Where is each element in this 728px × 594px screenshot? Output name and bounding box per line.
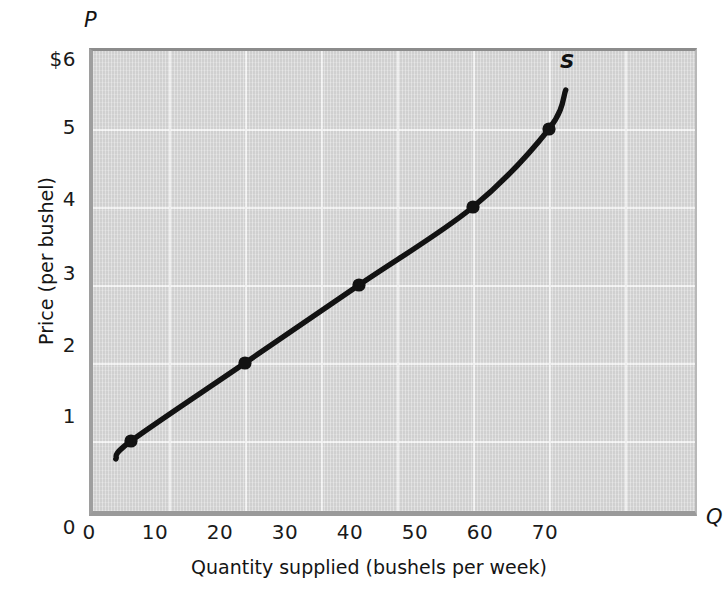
data-point-q5-p1 [124,434,137,447]
x-axis-letter: Q [706,505,723,529]
data-point-q20-p2 [238,356,251,369]
y-tick-label-5: 5 [8,115,76,139]
supply-curve-figure: P Q Price (per bushel) Quantity supplied… [0,0,728,594]
y-tick-label-1: 1 [8,404,76,428]
supply-curve-path [116,90,566,459]
plot-area [89,48,697,516]
data-point-q35-p3 [352,278,365,291]
x-tick-label-70: 70 [515,520,575,544]
supply-curve-label: S [560,49,574,73]
x-tick-label-30: 30 [255,520,315,544]
plot-inner [93,51,695,511]
x-tick-label-40: 40 [320,520,380,544]
y-tick-label-3: 3 [8,261,76,285]
x-axis-title: Quantity supplied (bushels per week) [89,556,649,578]
data-point-q50-p4 [466,200,479,213]
x-tick-label-60: 60 [450,520,510,544]
y-tick-label-2: 2 [8,333,76,357]
x-tick-label-0: 0 [59,520,119,544]
x-tick-label-50: 50 [385,520,445,544]
data-point-q60-p5 [542,122,555,135]
y-axis-letter: P [84,8,97,32]
y-tick-label-6: $6 [8,47,76,71]
y-tick-label-4: 4 [8,187,76,211]
supply-curve-svg [93,51,697,516]
x-tick-label-20: 20 [190,520,250,544]
x-tick-label-10: 10 [125,520,185,544]
